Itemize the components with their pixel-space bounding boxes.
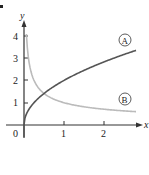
origin-label: 0: [13, 128, 18, 139]
y-tick-label: 2: [13, 75, 18, 86]
svg-text:B: B: [122, 95, 128, 105]
y-tick-label: 3: [13, 53, 18, 64]
x-tick-label: 1: [61, 128, 66, 139]
x-ticks: 1 2: [61, 121, 106, 139]
curve-a-label: A: [119, 34, 131, 46]
svg-text:A: A: [122, 36, 129, 46]
x-axis-label: x: [143, 119, 149, 130]
x-tick-label: 2: [101, 128, 106, 139]
curve-a: [24, 50, 136, 137]
y-tick-label: 1: [13, 97, 18, 108]
y-tick-label: 4: [13, 31, 18, 42]
x-axis-arrow-icon: [136, 123, 143, 128]
y-axis-label: y: [19, 10, 25, 21]
chart: y x 0 1 2 1 2 3 4 A B: [0, 0, 149, 175]
y-axis-arrow-icon: [22, 20, 27, 27]
y-ticks: 1 2 3 4: [13, 31, 28, 108]
curve-b: [26, 34, 136, 112]
curve-b-label: B: [119, 93, 131, 105]
